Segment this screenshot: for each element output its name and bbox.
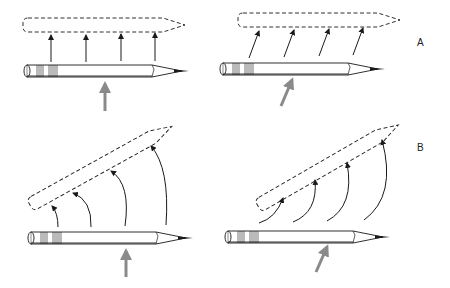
- ghost-pencil: [23, 18, 185, 32]
- force-arrow: [316, 247, 327, 272]
- force-arrow: [281, 80, 292, 106]
- panel-b-left: [27, 120, 193, 277]
- pencil: [24, 65, 189, 77]
- panel-a-right: [220, 13, 400, 106]
- diagram-canvas: [0, 0, 450, 288]
- panel-a-left: [23, 18, 189, 111]
- panel-b-right: [225, 119, 402, 272]
- rotation-arrows: [52, 146, 167, 227]
- ghost-pencil: [27, 120, 175, 211]
- ghost-pencil: [255, 119, 402, 212]
- translation-arrows: [51, 33, 155, 62]
- pencil: [225, 231, 390, 243]
- pencil: [28, 232, 193, 244]
- pencil: [220, 63, 385, 75]
- rotation-arrows: [259, 140, 387, 223]
- translation-arrows: [249, 28, 363, 58]
- ghost-pencil: [238, 13, 400, 27]
